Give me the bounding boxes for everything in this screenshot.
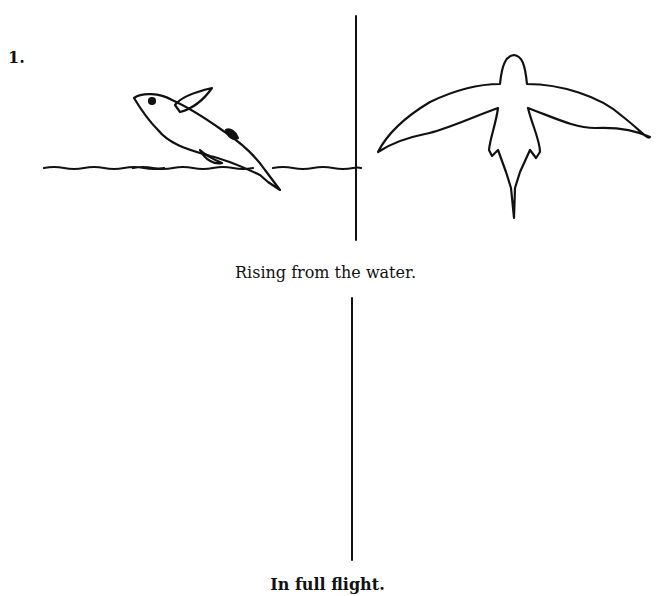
fish-side-rising-icon: [44, 88, 361, 190]
flying-fish-illustration: [0, 0, 671, 596]
caption-rising: Rising from the water.: [0, 263, 661, 282]
fish-top-rising-icon: [378, 55, 650, 218]
caption-full-flight: In full flight.: [0, 575, 663, 594]
